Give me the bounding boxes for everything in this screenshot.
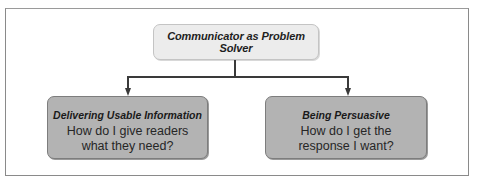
arrow-down-icon (345, 88, 351, 96)
root-node: Communicator as Problem Solver (153, 24, 319, 60)
child-node-question-line1: How do I give readers (48, 124, 207, 139)
root-node-title: Communicator as Problem Solver (154, 30, 318, 54)
child-node-heading: Being Persuasive (266, 109, 426, 121)
child-node-question-line2: what they need? (48, 139, 207, 154)
arrow-down-icon (125, 88, 131, 96)
child-node-usable-information: Delivering Usable Information How do I g… (47, 96, 208, 159)
connector-horizontal (127, 76, 349, 78)
child-node-persuasive: Being Persuasive How do I get the respon… (265, 96, 427, 159)
child-node-question-line1: How do I get the (266, 124, 426, 139)
child-node-question-line2: response I want? (266, 139, 426, 154)
child-node-heading: Delivering Usable Information (48, 109, 207, 121)
